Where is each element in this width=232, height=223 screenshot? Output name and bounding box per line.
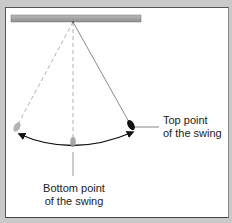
bottom-point-label: Bottom point of the swing [28,182,120,208]
string-left-dashed [17,22,73,126]
bob-left-icon [12,121,22,133]
bob-center-icon [70,137,76,147]
bottom-point-label-line2: of the swing [28,195,120,208]
ceiling-bar [11,15,141,22]
swing-arc [19,132,133,146]
bob-right-icon [125,119,136,132]
string-right-solid [73,22,129,122]
top-point-label-line2: of the swing [163,127,222,140]
top-point-label: Top point of the swing [163,114,222,140]
bottom-point-label-line1: Bottom point [28,182,120,195]
pivot-icon [72,21,74,23]
top-point-label-line1: Top point [163,114,222,127]
